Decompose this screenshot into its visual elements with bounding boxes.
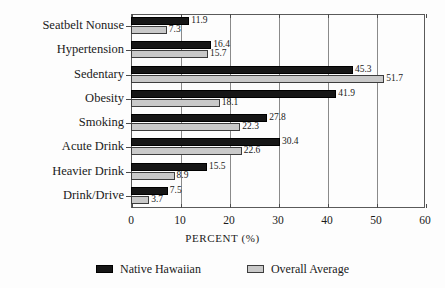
legend-label: Native Hawaiian xyxy=(120,263,201,275)
x-tick-label-20: 20 xyxy=(214,214,244,226)
bar-overall xyxy=(131,26,167,34)
bar-value-label: 3.7 xyxy=(151,195,163,204)
bar-value-label: 30.4 xyxy=(282,137,299,146)
bar-value-label: 18.1 xyxy=(222,98,239,107)
category-label-hypertension: Hypertension xyxy=(0,43,124,56)
x-tick-label-10: 10 xyxy=(165,214,195,226)
category-label-smoking: Smoking xyxy=(0,116,124,129)
category-tick xyxy=(126,172,131,173)
bar-value-label: 15.5 xyxy=(209,162,226,171)
bar-row: 45.351.7 xyxy=(131,63,425,87)
bar-value-label: 22.6 xyxy=(244,146,261,155)
gray-swatch-icon xyxy=(247,265,264,273)
category-tick xyxy=(126,147,131,148)
category-tick xyxy=(126,26,131,27)
bar-chart: 11.97.316.415.745.351.741.918.127.822.33… xyxy=(0,0,445,288)
bar-native xyxy=(131,66,353,74)
bar-row: 7.53.7 xyxy=(131,184,425,208)
category-label-obesity: Obesity xyxy=(0,92,124,105)
category-tick xyxy=(126,75,131,76)
category-label-acute-drink: Acute Drink xyxy=(0,140,124,153)
bar-overall xyxy=(131,172,175,180)
category-label-seatbelt-nonuse: Seatbelt Nonuse xyxy=(0,19,124,32)
chart-legend: Native HawaiianOverall Average xyxy=(0,263,445,275)
bar-row: 30.422.6 xyxy=(131,135,425,159)
bar-value-label: 41.9 xyxy=(338,89,355,98)
category-tick xyxy=(126,99,131,100)
category-label-sedentary: Sedentary xyxy=(0,68,124,81)
bar-overall xyxy=(131,147,242,155)
bar-value-label: 7.3 xyxy=(169,25,181,34)
x-tick-label-50: 50 xyxy=(361,214,391,226)
bar-value-label: 11.9 xyxy=(191,16,207,25)
bar-value-label: 8.9 xyxy=(177,171,189,180)
bar-row: 15.58.9 xyxy=(131,160,425,184)
category-label-drink-drive: Drink/Drive xyxy=(0,189,124,202)
legend-item-native-hawaiian: Native Hawaiian xyxy=(96,263,201,275)
bar-value-label: 45.3 xyxy=(355,65,372,74)
bar-overall xyxy=(131,123,240,131)
bar-value-label: 51.7 xyxy=(386,74,403,83)
bar-value-label: 7.5 xyxy=(170,186,182,195)
bar-row: 41.918.1 xyxy=(131,87,425,111)
bar-value-label: 22.3 xyxy=(242,122,259,131)
x-tick-label-40: 40 xyxy=(312,214,342,226)
bar-overall xyxy=(131,75,384,83)
category-tick xyxy=(126,196,131,197)
x-tick-bottom-60 xyxy=(426,204,427,208)
bar-overall xyxy=(131,50,208,58)
bar-value-label: 15.7 xyxy=(210,49,227,58)
bar-row: 11.97.3 xyxy=(131,14,425,38)
bar-overall xyxy=(131,196,149,204)
bar-native xyxy=(131,41,211,49)
bar-row: 16.415.7 xyxy=(131,38,425,62)
category-tick xyxy=(126,123,131,124)
black-swatch-icon xyxy=(96,265,113,273)
x-tick-label-0: 0 xyxy=(116,214,146,226)
category-tick xyxy=(126,50,131,51)
x-tick-top-60 xyxy=(426,14,427,18)
x-axis-title: PERCENT (%) xyxy=(0,232,445,244)
legend-item-overall-average: Overall Average xyxy=(247,263,349,275)
x-tick-label-30: 30 xyxy=(263,214,293,226)
legend-label: Overall Average xyxy=(271,263,349,275)
bar-row: 27.822.3 xyxy=(131,111,425,135)
x-tick-label-60: 60 xyxy=(410,214,440,226)
bar-native xyxy=(131,163,207,171)
bar-overall xyxy=(131,99,220,107)
bar-rows: 11.97.316.415.745.351.741.918.127.822.33… xyxy=(131,14,425,208)
bar-value-label: 27.8 xyxy=(269,113,286,122)
category-label-heavier-drink: Heavier Drink xyxy=(0,165,124,178)
